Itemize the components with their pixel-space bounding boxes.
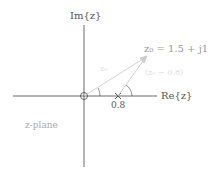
angle-arc-2 (126, 85, 132, 96)
pole-value-label: 0.8 (111, 100, 125, 110)
arrowhead (140, 56, 147, 63)
vector-z0-minus-0.8 (118, 57, 146, 96)
z-plane-diagram (0, 0, 208, 173)
angle-arc-1 (98, 88, 100, 96)
re-axis-label: Re{z} (161, 90, 192, 101)
vector-z0 (84, 57, 146, 96)
vector-label-z0: z₀ (100, 64, 107, 73)
vector-label-diff: (z₀ − 0.8) (145, 68, 183, 77)
point-label: z₀ = 1.5 + j1 (144, 43, 208, 54)
plane-label: z-plane (25, 120, 58, 130)
im-axis-label: Im{z} (70, 10, 101, 21)
